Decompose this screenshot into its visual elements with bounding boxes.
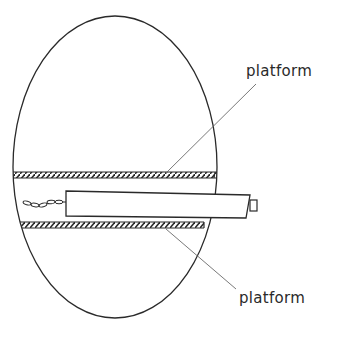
lower-platform-label: platform — [239, 289, 305, 307]
cylinder-knob — [250, 200, 257, 211]
upper-leader-line — [166, 84, 256, 173]
lower-leader-line — [166, 229, 236, 289]
chain — [23, 200, 66, 208]
lower-platform — [10, 222, 204, 228]
upper-platform-label: platform — [246, 62, 312, 80]
cylinder — [66, 191, 257, 218]
upper-platform — [10, 172, 220, 178]
vessel-outline — [13, 16, 217, 318]
